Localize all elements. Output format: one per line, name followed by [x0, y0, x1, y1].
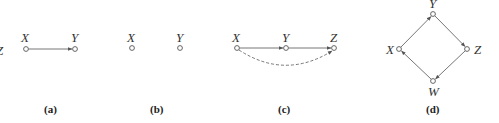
panel-b: X Y (b) — [126, 30, 185, 116]
node-y — [73, 47, 78, 52]
label-y: Y — [429, 0, 438, 11]
panel-c: X Y Z (c) — [231, 30, 338, 116]
edge-z-to-w — [436, 51, 466, 79]
edge-x-to-z-dashed — [239, 50, 332, 65]
label-w: W — [428, 84, 440, 99]
edge-w-to-x — [402, 51, 432, 79]
label-z: Z — [330, 30, 338, 45]
node-z — [465, 47, 470, 52]
node-x — [235, 46, 240, 51]
label-x: X — [231, 30, 241, 45]
node-y — [284, 46, 289, 51]
node-y — [431, 12, 436, 17]
label-x: X — [126, 30, 136, 45]
causal-graphs-figure: Z X Y (a) X Y (b) X Y Z (c) — [0, 0, 499, 123]
edge-y-to-z — [435, 16, 465, 47]
node-x — [130, 46, 135, 51]
partial-z-label: Z — [0, 43, 4, 58]
panel-a: X Y (a) — [20, 30, 80, 116]
label-x: X — [385, 42, 395, 57]
caption-b: (b) — [150, 103, 164, 116]
node-y — [178, 46, 183, 51]
label-z: Z — [474, 42, 482, 57]
caption-a: (a) — [44, 103, 57, 116]
node-x — [397, 47, 402, 52]
partial-left-graph: Z — [0, 43, 4, 58]
label-y: Y — [176, 30, 185, 45]
edge-x-to-y — [401, 17, 431, 48]
label-y: Y — [282, 30, 291, 45]
node-x — [24, 47, 29, 52]
caption-d: (d) — [426, 103, 440, 116]
node-w — [431, 79, 436, 84]
label-y: Y — [71, 30, 80, 45]
label-x: X — [20, 30, 30, 45]
caption-c: (c) — [278, 103, 291, 116]
node-z — [332, 46, 337, 51]
panel-d: Y X Z W (d) — [385, 0, 482, 116]
